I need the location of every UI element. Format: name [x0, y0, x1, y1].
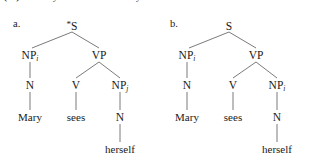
node-b-vp-label: VP [249, 49, 264, 61]
branch-s-to-vp [72, 32, 99, 48]
branch-vp-to-npi [256, 62, 277, 78]
leaf-a-subject-word: Mary [18, 111, 42, 123]
leaf-b-verb-word: sees [224, 111, 242, 123]
node-a-vp: VP [92, 49, 107, 61]
leaf-a-object-word: herself [105, 143, 135, 155]
node-b-object-n-label: N [273, 111, 281, 123]
node-b-root-label: S [226, 20, 232, 32]
leaf-a-verb-word: sees [67, 111, 85, 123]
node-b-subject-np-subscript: i [193, 54, 195, 63]
leaf-b-object-word: herself [262, 143, 292, 155]
node-a-subject-np: NPi [22, 49, 39, 65]
node-a-root-label: S [71, 20, 77, 32]
node-b-object-np: NPi [269, 79, 286, 95]
node-a-subject-np-label: NP [22, 49, 37, 61]
branch-s-to-np [32, 32, 72, 48]
node-b-root: S [226, 18, 232, 32]
node-b-vp: VP [249, 49, 264, 61]
item-label-a: a. [13, 18, 20, 30]
node-b-object-np-label: NP [269, 79, 284, 91]
node-a-subject-np-subscript: i [36, 54, 38, 63]
branch-vp-to-v [233, 62, 256, 78]
node-a-object-np-label: NP [112, 79, 127, 91]
leaf-b-subject-word: Mary [175, 111, 199, 123]
node-a-vp-label: VP [92, 49, 107, 61]
branch-s-to-np [189, 32, 229, 48]
node-b-subject-np: NPi [179, 49, 196, 65]
node-a-object-n-label: N [116, 111, 124, 123]
node-b-object-n: N [273, 111, 281, 123]
node-a-object-n: N [116, 111, 124, 123]
node-a-subject-n-label: N [26, 79, 34, 91]
node-b-object-np-subscript: i [283, 84, 285, 93]
syntax-tree-b: b. S NPi VP N V NPi N Mary sees herself [157, 0, 313, 168]
node-b-subject-n: N [183, 79, 191, 91]
node-a-object-np-subscript: j [126, 84, 128, 93]
item-label-b: b. [170, 18, 178, 30]
node-b-verb-v: V [229, 79, 237, 91]
node-b-verb-v-label: V [229, 79, 237, 91]
node-a-object-np: NPj [112, 79, 129, 95]
syntax-tree-a: a. *S NPi VP N V NPj N Mary sees herself [0, 0, 156, 168]
branch-s-to-vp [229, 32, 256, 48]
branch-vp-to-v [76, 62, 99, 78]
node-a-verb-v-label: V [72, 79, 80, 91]
node-a-subject-n: N [26, 79, 34, 91]
node-b-subject-n-label: N [183, 79, 191, 91]
node-a-verb-v: V [72, 79, 80, 91]
node-b-subject-np-label: NP [179, 49, 194, 61]
node-a-root: *S [67, 18, 78, 32]
branch-vp-to-npj [99, 62, 120, 78]
